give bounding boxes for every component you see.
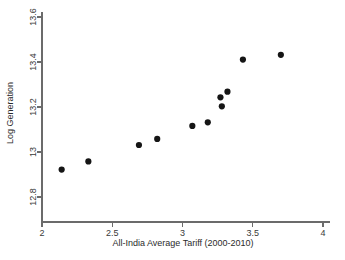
data-point-marker	[85, 158, 91, 164]
x-tick-label: 3	[180, 228, 185, 238]
data-point-marker	[219, 103, 225, 109]
chart-figure: 22.533.54 12.81313.213.413.6 All-India A…	[0, 0, 345, 260]
data-point-marker	[224, 89, 230, 95]
data-point-marker	[59, 166, 65, 172]
plot-background	[0, 0, 345, 260]
x-tick-label: 4	[320, 228, 325, 238]
data-point-marker	[278, 52, 284, 58]
x-axis-title: All-India Average Tariff (2000-2010)	[112, 238, 253, 248]
data-point-marker	[217, 94, 223, 100]
scatter-plot-svg: 22.533.54 12.81313.213.413.6 All-India A…	[0, 0, 345, 260]
y-tick-label: 13.6	[28, 8, 38, 26]
data-point-marker	[154, 136, 160, 142]
data-point-marker	[205, 119, 211, 125]
y-tick-label: 13.4	[28, 53, 38, 71]
x-tick-label: 3.5	[246, 228, 259, 238]
data-point-marker	[189, 123, 195, 129]
data-point-marker	[240, 56, 246, 62]
y-tick-label: 12.8	[28, 188, 38, 206]
y-tick-label: 13.2	[28, 98, 38, 116]
x-tick-label: 2	[39, 228, 44, 238]
data-point-marker	[136, 142, 142, 148]
y-tick-label: 13	[28, 147, 38, 157]
y-axis-title: Log Generation	[5, 82, 15, 144]
x-tick-label: 2.5	[106, 228, 119, 238]
